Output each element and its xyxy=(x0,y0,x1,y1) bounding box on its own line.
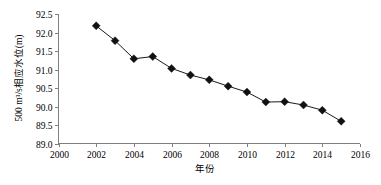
x-axis-ticks xyxy=(60,144,361,148)
y-axis-title: 500 m³/s相应水位(m) xyxy=(13,35,25,122)
data-point-marker xyxy=(318,106,326,114)
y-tick-label: 91.5 xyxy=(36,47,53,57)
data-point-marker xyxy=(337,117,345,125)
y-axis-tick-labels: 89.089.590.090.591.091.592.092.5 xyxy=(36,10,53,150)
y-tick-label: 91.0 xyxy=(36,66,53,76)
data-point-marker xyxy=(262,98,270,106)
x-tick-label: 2006 xyxy=(163,150,182,160)
y-axis-group: 89.089.590.090.591.091.592.092.5 xyxy=(36,10,59,150)
y-tick-label: 92.0 xyxy=(36,29,53,39)
x-axis-title: 年份 xyxy=(195,163,215,174)
x-tick-label: 2010 xyxy=(238,150,257,160)
x-tick-label: 2016 xyxy=(351,150,370,160)
y-tick-label: 89.5 xyxy=(36,121,53,131)
x-axis-tick-labels: 200020022004200620082010201220142016 xyxy=(50,150,370,160)
data-point-marker xyxy=(205,76,213,84)
y-tick-label: 90.0 xyxy=(36,103,53,113)
y-tick-label: 92.5 xyxy=(36,10,53,20)
y-axis-ticks xyxy=(55,15,59,145)
data-point-marker xyxy=(186,71,194,79)
x-tick-label: 2008 xyxy=(200,150,219,160)
data-series-group xyxy=(92,22,345,125)
x-tick-label: 2004 xyxy=(125,150,144,160)
x-tick-label: 2000 xyxy=(50,150,69,160)
line-chart: 89.089.590.090.591.091.592.092.5 2000200… xyxy=(0,0,381,185)
data-point-marker xyxy=(243,88,251,96)
data-point-marker xyxy=(299,101,307,109)
y-tick-label: 89.0 xyxy=(36,140,53,150)
x-axis-group: 200020022004200620082010201220142016 xyxy=(50,144,370,160)
data-point-marker xyxy=(149,53,157,61)
series-markers xyxy=(92,22,345,125)
data-point-marker xyxy=(168,64,176,72)
x-tick-label: 2012 xyxy=(276,150,295,160)
chart-figure: 89.089.590.090.591.091.592.092.5 2000200… xyxy=(0,0,381,185)
x-tick-label: 2014 xyxy=(313,150,332,160)
y-tick-label: 90.5 xyxy=(36,84,53,94)
data-point-marker xyxy=(281,98,289,106)
data-point-marker xyxy=(224,82,232,90)
x-tick-label: 2002 xyxy=(87,150,106,160)
